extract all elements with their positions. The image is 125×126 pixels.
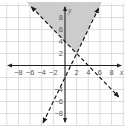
y-axis-label: y xyxy=(67,6,72,15)
x-tick-label: 2 xyxy=(75,68,79,77)
x-tick-label: −8 xyxy=(14,68,23,77)
y-tick-label: −4 xyxy=(54,85,63,94)
shaded-region xyxy=(27,2,102,54)
x-tick-label: −6 xyxy=(26,68,35,77)
x-tick-label: 6 xyxy=(98,68,102,77)
x-tick-labels: −8−6−4−22468 xyxy=(14,68,113,77)
y-tick-label: 6 xyxy=(59,25,63,34)
x-tick-label: 4 xyxy=(86,68,90,77)
x-tick-label: −4 xyxy=(37,68,46,77)
y-tick-label: 2 xyxy=(59,49,63,58)
x-tick-label: 8 xyxy=(109,68,113,77)
y-tick-label: 4 xyxy=(59,37,63,46)
y-tick-label: 8 xyxy=(59,13,63,22)
coordinate-graph: −8−6−4−22468 8642−4−6−8 x y xyxy=(0,0,125,126)
x-axis-label: x xyxy=(119,68,124,77)
y-tick-label: −6 xyxy=(54,97,63,106)
x-tick-label: −2 xyxy=(49,68,58,77)
y-tick-label: −8 xyxy=(54,109,63,118)
